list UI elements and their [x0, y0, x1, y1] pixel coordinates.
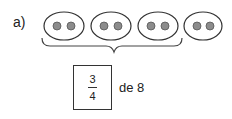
fraction-numerator: 3 — [89, 73, 95, 85]
dot-icon — [67, 22, 75, 30]
group-4 — [184, 12, 222, 40]
dot-icon — [114, 22, 122, 30]
dot-icon — [53, 22, 61, 30]
fraction-box: 3 4 — [73, 65, 112, 110]
dot-icon — [161, 22, 169, 30]
grouped-dots-figure — [0, 0, 232, 70]
group-1 — [44, 12, 84, 40]
fraction-denominator: 4 — [89, 90, 95, 102]
dot-icon — [100, 22, 108, 30]
dot-icon — [147, 22, 155, 30]
group-2 — [91, 12, 131, 40]
dot-icon — [206, 22, 214, 30]
fraction-bar — [88, 87, 97, 88]
fraction-of-text: de 8 — [119, 80, 144, 95]
dot-icon — [193, 22, 201, 30]
group-3 — [138, 12, 178, 40]
